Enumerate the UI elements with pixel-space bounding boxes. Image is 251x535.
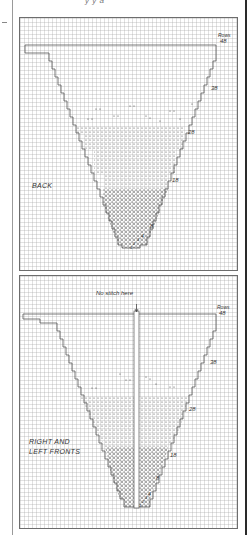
row-marker-48: 48 — [220, 38, 227, 44]
row-marker-2: 2 — [133, 241, 135, 246]
row-marker-8: 8 — [156, 475, 159, 481]
row-marker-8: 8 — [150, 223, 153, 229]
no-stitch-annotation: No stitch here — [96, 290, 133, 296]
fronts-label-line2: LEFT FRONTS — [29, 448, 80, 455]
row-marker-48: 48 — [219, 310, 226, 316]
fronts-chart-shape — [20, 276, 237, 528]
back-label: BACK — [32, 182, 52, 189]
margin-tick — [2, 22, 7, 23]
right-margin-rule — [245, 0, 247, 535]
row-marker-18: 18 — [170, 452, 177, 458]
row-marker-38: 38 — [210, 359, 217, 365]
header-partial-text: y y a — [85, 0, 104, 5]
row-marker-3: 3 — [145, 495, 147, 500]
back-chart-panel: Rows 48 38 28 18 8 4 3 2 1 BACK — [19, 17, 238, 271]
row-marker-4: 4 — [148, 491, 151, 497]
row-marker-18: 18 — [172, 177, 179, 183]
fronts-label-line1: RIGHT AND — [29, 438, 70, 445]
row-marker-38: 38 — [211, 85, 218, 91]
row-marker-1: 1 — [130, 245, 132, 250]
back-chart-shape — [20, 18, 237, 270]
fronts-chart-panel: No stitch here Rows 48 38 28 18 8 4 3 2 … — [19, 275, 238, 529]
row-marker-2: 2 — [142, 499, 144, 504]
row-marker-1: 1 — [139, 503, 141, 508]
row-marker-3: 3 — [137, 237, 139, 242]
row-marker-28: 28 — [188, 129, 195, 135]
row-marker-28: 28 — [189, 406, 196, 412]
page-edge-line — [12, 0, 13, 535]
row-marker-4: 4 — [141, 233, 144, 239]
